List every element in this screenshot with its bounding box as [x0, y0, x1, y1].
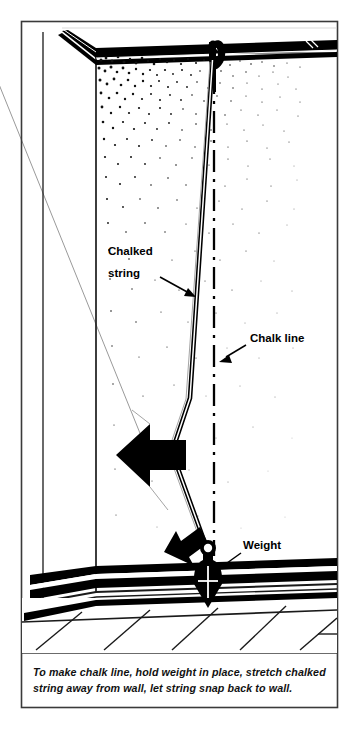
illustration-figure: Chalked string Chalk line Weight To make…	[0, 0, 357, 730]
label-chalked-string-line2: string	[108, 267, 140, 279]
floorboards	[22, 592, 337, 654]
caption-line-1: To make chalk line, hold weight in place…	[33, 666, 326, 678]
label-weight: Weight	[243, 539, 281, 551]
label-chalk-line: Chalk line	[250, 332, 304, 344]
chalk-line-illustration: Chalked string Chalk line Weight To make…	[0, 0, 357, 730]
caption-line-2: string away from wall, let string snap b…	[33, 682, 292, 694]
label-chalked-string-line1: Chalked	[108, 245, 153, 257]
